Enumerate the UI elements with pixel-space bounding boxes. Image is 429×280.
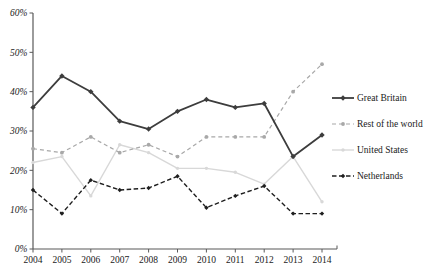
legend-swatch-great-britain <box>331 92 355 104</box>
legend-label-united-states: United States <box>357 143 408 157</box>
svg-text:40%: 40% <box>10 87 28 97</box>
svg-text:2007: 2007 <box>110 255 129 265</box>
series-netherlands <box>31 174 324 216</box>
legend-swatch-rest-of-the-world <box>331 118 355 130</box>
svg-text:2008: 2008 <box>139 255 158 265</box>
svg-text:2009: 2009 <box>168 255 187 265</box>
svg-text:30%: 30% <box>9 126 28 136</box>
svg-text:2004: 2004 <box>24 255 43 265</box>
legend-item-netherlands: Netherlands <box>331 169 403 183</box>
svg-text:0%: 0% <box>15 244 28 254</box>
chart-canvas: 0%10%20%30%40%50%60%20042005200620072008… <box>0 0 429 280</box>
legend-item-great-britain: Great Britain <box>331 91 407 105</box>
svg-text:2013: 2013 <box>284 255 303 265</box>
svg-text:2005: 2005 <box>52 255 71 265</box>
svg-text:2011: 2011 <box>226 255 245 265</box>
legend-label-netherlands: Netherlands <box>357 169 403 183</box>
legend-swatch-united-states <box>331 144 355 156</box>
svg-text:2012: 2012 <box>255 255 274 265</box>
legend-label-great-britain: Great Britain <box>357 91 407 105</box>
legend-item-rest-of-the-world: Rest of the world <box>331 117 423 131</box>
legend-label-rest-of-the-world: Rest of the world <box>357 117 423 131</box>
legend-swatch-netherlands <box>331 170 355 182</box>
svg-text:2010: 2010 <box>197 255 216 265</box>
legend-item-united-states: United States <box>331 143 408 157</box>
line-chart: 0%10%20%30%40%50%60%20042005200620072008… <box>0 0 429 280</box>
svg-text:60%: 60% <box>10 8 28 18</box>
svg-text:50%: 50% <box>10 48 28 58</box>
svg-text:2006: 2006 <box>81 255 100 265</box>
svg-text:10%: 10% <box>10 205 28 215</box>
series-united-states <box>31 143 323 203</box>
svg-text:20%: 20% <box>10 166 28 176</box>
svg-text:2014: 2014 <box>313 255 332 265</box>
